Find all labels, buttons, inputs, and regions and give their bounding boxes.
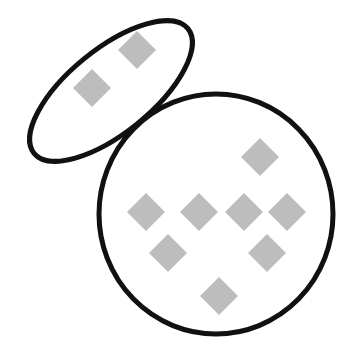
diamond-item [200, 277, 238, 315]
diamond-item [268, 193, 306, 231]
diamond-item [127, 193, 165, 231]
venn-diagram [0, 0, 362, 356]
diamond-item [248, 234, 286, 272]
diamond-item [149, 234, 187, 272]
diamond-item [225, 193, 263, 231]
diamond-item [180, 193, 218, 231]
diamond-item [241, 138, 279, 176]
diamond-item [73, 69, 111, 107]
diamond-item [118, 31, 156, 69]
